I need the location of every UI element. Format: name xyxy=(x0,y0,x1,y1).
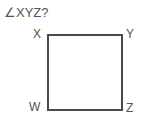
vertex-label-w: W xyxy=(29,101,40,113)
vertex-label-z: Z xyxy=(126,102,133,114)
vertex-label-x: X xyxy=(33,28,41,40)
square-outline xyxy=(48,35,122,110)
vertex-label-y: Y xyxy=(126,28,134,40)
geometry-figure-panel: ∠XYZ? X Y W Z xyxy=(0,0,147,122)
square-shape-icon xyxy=(0,0,147,122)
